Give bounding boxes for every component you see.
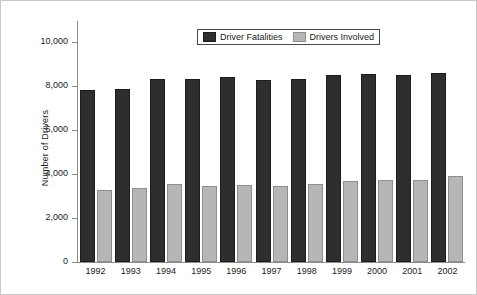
bar-group	[78, 21, 113, 262]
bar-drivers-involved	[97, 190, 112, 262]
y-axis-tick-label: 8,000	[45, 80, 68, 90]
x-axis-tick-label: 1998	[289, 266, 324, 276]
bar-driver-fatalities	[431, 73, 446, 262]
bar-drivers-involved	[308, 184, 323, 262]
chart-legend: Driver FatalitiesDrivers Involved	[197, 29, 380, 45]
y-axis-tick: 10,000	[72, 42, 77, 43]
x-axis-tick-label: 1994	[148, 266, 183, 276]
y-axis-tick-label: 2,000	[45, 212, 68, 222]
bar-group	[324, 21, 359, 262]
bar-driver-fatalities	[185, 79, 200, 262]
bar-driver-fatalities	[396, 75, 411, 262]
bar-drivers-involved	[202, 186, 217, 262]
bar-drivers-involved	[237, 185, 252, 262]
x-axis-tick-label: 1999	[324, 266, 359, 276]
plot-area: 02,0004,0006,0008,00010,000	[77, 21, 465, 263]
bar-group	[430, 21, 465, 262]
y-axis-tick-label: 6,000	[45, 124, 68, 134]
y-axis-tick-label: 10,000	[40, 36, 68, 46]
legend-entry: Driver Fatalities	[203, 32, 283, 42]
bar-drivers-involved	[273, 186, 288, 262]
legend-swatch-gray	[293, 32, 306, 42]
bar-group	[254, 21, 289, 262]
bar-driver-fatalities	[115, 89, 130, 262]
bar-driver-fatalities	[256, 80, 271, 262]
bar-driver-fatalities	[361, 74, 376, 262]
y-axis-tick: 0	[72, 262, 77, 263]
bar-driver-fatalities	[220, 77, 235, 262]
bar-group	[113, 21, 148, 262]
bar-drivers-involved	[378, 180, 393, 262]
bar-group	[395, 21, 430, 262]
x-axis-line	[77, 262, 465, 263]
bar-drivers-involved	[448, 176, 463, 262]
y-axis-tick: 2,000	[72, 218, 77, 219]
bar-group	[184, 21, 219, 262]
x-axis-tick-labels: 1992199319941995199619971998199920002001…	[78, 266, 465, 276]
bar-group	[148, 21, 183, 262]
x-axis-tick-label: 1995	[184, 266, 219, 276]
y-axis-tick: 4,000	[72, 174, 77, 175]
bar-driver-fatalities	[150, 79, 165, 262]
y-axis-tick: 8,000	[72, 86, 77, 87]
y-axis-tick-label: 0	[63, 256, 68, 266]
x-axis-tick-label: 2002	[430, 266, 465, 276]
x-axis-tick-label: 2000	[360, 266, 395, 276]
bar-drivers-involved	[413, 180, 428, 262]
legend-label: Driver Fatalities	[220, 32, 283, 42]
bar-drivers-involved	[343, 181, 358, 262]
bar-group	[289, 21, 324, 262]
y-axis-tick-label: 4,000	[45, 168, 68, 178]
x-axis-tick-label: 1992	[78, 266, 113, 276]
bar-drivers-involved	[167, 184, 182, 262]
bar-drivers-involved	[132, 188, 147, 262]
bar-group	[219, 21, 254, 262]
x-axis-tick-label: 2001	[395, 266, 430, 276]
bar-driver-fatalities	[326, 75, 341, 262]
legend-swatch-dark	[203, 32, 216, 42]
legend-entry: Drivers Involved	[293, 32, 375, 42]
legend-label: Drivers Involved	[310, 32, 375, 42]
x-axis-tick-label: 1996	[219, 266, 254, 276]
x-axis-tick-label: 1997	[254, 266, 289, 276]
bar-driver-fatalities	[80, 90, 95, 262]
y-axis-tick: 6,000	[72, 130, 77, 131]
bar-groups	[78, 21, 465, 262]
bar-driver-fatalities	[291, 79, 306, 262]
bar-chart-figure: Number of Drivers 02,0004,0006,0008,0001…	[0, 0, 477, 295]
bar-group	[360, 21, 395, 262]
x-axis-tick-label: 1993	[113, 266, 148, 276]
